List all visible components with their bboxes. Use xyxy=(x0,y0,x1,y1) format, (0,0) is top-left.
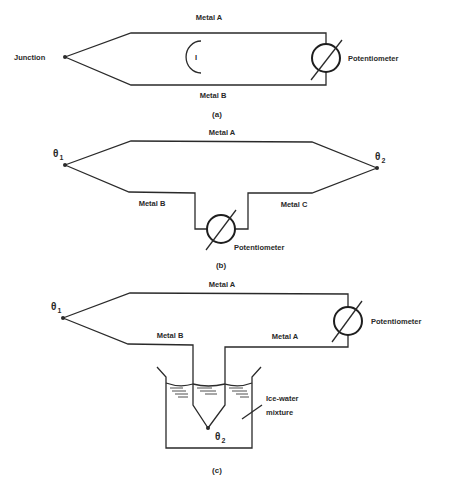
panel-a-metal-b-label: Metal B xyxy=(200,91,227,100)
panel-b: Metal A θ1 θ2 Metal B Metal C Potentiome… xyxy=(53,128,385,270)
panel-b-metal-a-wire xyxy=(65,141,377,168)
panel-b-metal-b-wire xyxy=(65,165,207,229)
panel-c-theta2-junction xyxy=(206,426,210,430)
potentiometer-icon xyxy=(206,210,236,250)
panel-c-metal-b-label: Metal B xyxy=(157,331,184,340)
panel-c-metal-a-right-label: Metal A xyxy=(272,332,299,341)
panel-a-current-label: I xyxy=(195,53,197,62)
panel-b-metal-c-wire xyxy=(235,168,377,229)
panel-c-potentiometer-label: Potentiometer xyxy=(371,317,422,326)
panel-c-bath-label-line1: Ice-water xyxy=(266,394,299,403)
panel-c-theta1-label: θ1 xyxy=(51,301,61,314)
panel-b-theta1-junction xyxy=(63,163,67,167)
panel-c-theta1-junction xyxy=(61,316,65,320)
panel-b-potentiometer-label: Potentiometer xyxy=(234,243,285,252)
panel-b-metal-c-label: Metal C xyxy=(281,200,308,209)
panel-a-junction-dot xyxy=(63,55,67,59)
panel-a-potentiometer-label: Potentiometer xyxy=(348,54,399,63)
panel-b-caption: (b) xyxy=(216,261,227,270)
current-arrow-icon xyxy=(186,41,201,73)
panel-b-metal-b-label: Metal B xyxy=(139,199,166,208)
panel-b-metal-a-label: Metal A xyxy=(209,128,236,137)
panel-b-theta2-label: θ2 xyxy=(375,151,385,164)
panel-c-bath-label-line2: mixture xyxy=(266,408,293,417)
panel-c: Metal A θ1 θ2 Metal B Metal A Potentiome… xyxy=(51,280,422,475)
panel-c-metal-a-wire xyxy=(63,293,348,318)
ice-water-beaker-icon xyxy=(157,367,262,448)
potentiometer-icon xyxy=(332,301,362,342)
panel-c-caption: (c) xyxy=(212,466,222,475)
figure-svg: Metal A Junction I Potentiometer Metal B… xyxy=(0,0,452,492)
panel-c-theta2-label: θ2 xyxy=(215,431,225,444)
panel-a-caption: (a) xyxy=(212,110,222,119)
panel-b-theta1-label: θ1 xyxy=(53,148,63,161)
panel-a-metal-a-label: Metal A xyxy=(196,13,223,22)
panel-b-theta2-junction xyxy=(375,166,379,170)
thermocouple-figure: Metal A Junction I Potentiometer Metal B… xyxy=(0,0,452,492)
panel-a-junction-label: Junction xyxy=(14,53,46,62)
panel-c-metal-a-label: Metal A xyxy=(209,280,236,289)
panel-a: Metal A Junction I Potentiometer Metal B… xyxy=(14,13,399,119)
panel-c-metal-b-wire xyxy=(63,318,208,428)
